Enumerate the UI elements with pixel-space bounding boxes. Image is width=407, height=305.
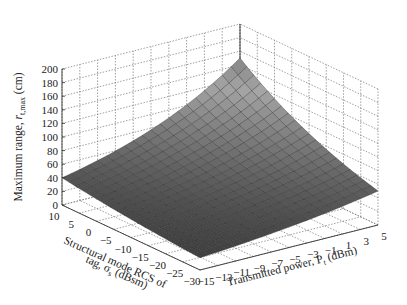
y-tick-label: −5 (100, 234, 112, 246)
y-tick-label: −20 (149, 259, 167, 271)
x-tick-label: 5 (381, 230, 387, 242)
z-tick-label: 140 (42, 104, 59, 116)
y-tick-label: 10 (49, 210, 61, 222)
y-tick-label: 0 (86, 226, 92, 238)
z-axis-label: Maximum range, rt,max (cm) (12, 72, 27, 201)
x-tick-label: −15 (197, 275, 215, 287)
z-tick-label: 200 (42, 63, 59, 75)
z-tick-label: 120 (42, 117, 59, 129)
back-wall-gridline-z (62, 38, 240, 83)
z-tick-label: 60 (47, 158, 59, 170)
x-tick-label: 3 (363, 235, 369, 247)
z-tick-label: 20 (47, 185, 59, 197)
z-tick-label: 180 (42, 77, 59, 89)
y-tick-label: −10 (114, 243, 132, 255)
y-tick-label: −15 (132, 251, 150, 263)
y-tick-label: −25 (166, 267, 184, 279)
surface-chart: 0204060801001201401601802001050−5−10−15−… (0, 0, 407, 305)
z-tick-label: 100 (42, 131, 59, 143)
z-tick-label: 160 (42, 90, 59, 102)
z-tick-label: 40 (47, 172, 59, 184)
y-tick-label: 5 (69, 218, 75, 230)
z-tick-label: 80 (47, 145, 59, 157)
